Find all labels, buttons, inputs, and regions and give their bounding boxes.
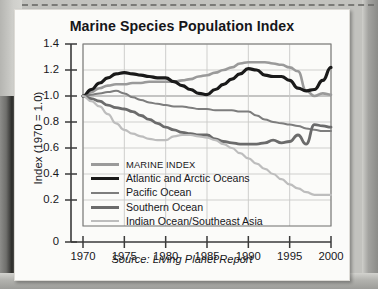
- figure-inner: Marine Species Population Index Index (1…: [15, 10, 349, 280]
- y-tick-label: 1.0: [29, 89, 59, 101]
- legend-swatch-icon: [91, 220, 119, 222]
- plot-area: Index (1970 = 1.0) 00.20.40.60.81.01.21.…: [15, 10, 349, 280]
- y-tick-label: 0.4: [29, 167, 59, 179]
- source-note: Source: Living Planet Report: [15, 253, 349, 265]
- y-tick-label: 0: [29, 235, 59, 247]
- y-tick-label: 0.8: [29, 115, 59, 127]
- y-tick-label: 0.6: [29, 141, 59, 153]
- dashed-rule-top: [22, 4, 374, 6]
- legend-item: Indian Ocean/Southeast Asia: [91, 215, 263, 228]
- legend-label: MARINE INDEX: [126, 159, 196, 170]
- legend-swatch-icon: [91, 206, 119, 209]
- legend-label: Pacific Ocean: [126, 187, 191, 198]
- legend-swatch-icon: [91, 177, 119, 180]
- page-right-gutter-shadow: [362, 0, 378, 289]
- y-tick-label: 0.2: [29, 193, 59, 205]
- legend-label: Atlantic and Arctic Oceans: [126, 173, 250, 184]
- y-tick-label: 1.4: [29, 37, 59, 49]
- y-tick-label: 1.2: [29, 63, 59, 75]
- legend-label: Indian Ocean/Southeast Asia: [126, 216, 263, 227]
- chart-svg: [15, 10, 349, 280]
- figure-card: Marine Species Population Index Index (1…: [14, 9, 350, 281]
- y-axis-label: Index (1970 = 1.0): [32, 63, 44, 213]
- legend-item: Southern Ocean: [91, 201, 203, 214]
- legend-item: Pacific Ocean: [91, 186, 191, 199]
- legend-item: MARINE INDEX: [91, 158, 196, 171]
- legend-label: Southern Ocean: [126, 202, 203, 213]
- legend-item: Atlantic and Arctic Oceans: [91, 172, 250, 185]
- scanned-page: Marine Species Population Index Index (1…: [0, 0, 378, 289]
- legend-swatch-icon: [91, 163, 119, 166]
- legend-swatch-icon: [91, 192, 119, 194]
